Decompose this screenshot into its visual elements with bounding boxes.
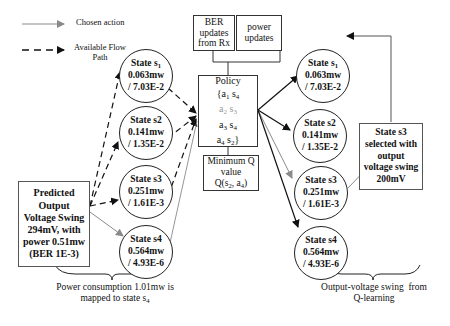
left-state-s4: State s4 0.564mw / 4.93E-6 xyxy=(119,225,173,279)
minq-line2: value xyxy=(221,167,242,178)
predicted-line6: (BER 1E-3) xyxy=(29,248,79,260)
state-power: 0.141mw xyxy=(128,127,164,139)
power-line1: power xyxy=(247,22,271,33)
minimum-q-box: Minimum Q value Q(s2, a4) xyxy=(203,155,259,191)
right-caption: Output-voltage swing from Q-learning xyxy=(318,282,430,304)
predicted-line1: Predicted xyxy=(34,187,75,199)
state-power: 0.063mw xyxy=(128,70,164,82)
predicted-output-box: Predicted Output Voltage Swing 294mV, wi… xyxy=(18,181,90,267)
predicted-line2: Output xyxy=(38,200,69,212)
policy-row-4: a4 s2} xyxy=(217,133,240,148)
selected-line5: 200mV xyxy=(376,174,405,186)
state-title: State s1 xyxy=(131,58,161,70)
state-ber: / 7.03E-2 xyxy=(305,82,341,94)
left-state-s3: State s3 0.251mw / 1.61E-3 xyxy=(119,165,173,219)
selected-line1: State s3 xyxy=(375,127,406,139)
predicted-line3: Voltage Swing xyxy=(24,212,84,224)
state-title: State s3 xyxy=(130,174,161,186)
state-power: 0.141mw xyxy=(302,130,338,142)
right-caption-line2: Q-learning xyxy=(318,293,430,304)
right-state-s1: State s1 0.063mw / 7.03E-2 xyxy=(296,49,350,103)
state-title: State s2 xyxy=(304,118,335,130)
state-title: State s3 xyxy=(305,175,336,187)
state-ber: / 4.93E-6 xyxy=(128,258,164,270)
right-state-s2: State s2 0.141mw / 1.35E-2 xyxy=(293,109,347,163)
policy-box: Policy {a1 s4 a2 s3 a3 s4 a4 s2} xyxy=(198,75,258,147)
policy-title: Policy xyxy=(215,74,241,87)
ber-line3: from Rx xyxy=(198,38,230,49)
policy-row-2: a2 s3 xyxy=(219,102,237,117)
selected-line2: selected with xyxy=(365,139,417,151)
state-ber: / 4.93E-6 xyxy=(303,259,339,271)
state-power: 0.564mw xyxy=(128,246,164,258)
left-caption-line2: mapped to state s4 xyxy=(42,293,188,305)
state-title: State s2 xyxy=(130,115,161,127)
right-state-s3: State s3 0.251mw / 1.61E-3 xyxy=(294,166,348,220)
policy-row-3: a3 s4 xyxy=(219,118,237,133)
selected-line4: voltage swing xyxy=(364,162,419,174)
state-power: 0.251mw xyxy=(128,186,164,198)
selected-state-box: State s3 selected with output voltage sw… xyxy=(359,123,423,190)
policy-row-1: {a1 s4 xyxy=(217,87,240,102)
predicted-line4: 294mV, with xyxy=(27,224,80,236)
state-ber: / 7.03E-2 xyxy=(128,82,164,94)
legend-available-flow-label: Available Flow Path xyxy=(74,43,126,63)
left-state-s1: State s1 0.063mw / 7.03E-2 xyxy=(119,49,173,103)
state-title: State s4 xyxy=(305,235,336,247)
right-state-s4: State s4 0.564mw / 4.93E-6 xyxy=(294,226,348,280)
state-ber: / 1.61E-3 xyxy=(303,199,339,211)
state-power: 0.564mw xyxy=(303,247,339,259)
right-caption-line1: Output-voltage swing from xyxy=(318,282,430,293)
left-caption-line1: Power consumption 1.01mw is xyxy=(42,282,188,293)
ber-line1: BER xyxy=(205,17,223,28)
ber-line2: updates xyxy=(199,28,228,39)
state-power: 0.063mw xyxy=(305,70,341,82)
state-ber: / 1.61E-3 xyxy=(128,198,164,210)
legend-available-flow-line2: Path xyxy=(74,53,126,63)
state-title: State s4 xyxy=(130,234,161,246)
state-ber: / 1.35E-2 xyxy=(128,139,164,151)
state-title: State s1 xyxy=(308,58,338,70)
predicted-line5: power 0.51mw xyxy=(23,236,85,248)
power-updates-box: power updates xyxy=(236,15,282,51)
minq-line3: Q(s2, a4) xyxy=(215,178,248,190)
selected-line3: output xyxy=(378,151,405,163)
power-line2: updates xyxy=(244,33,273,44)
left-state-s2: State s2 0.141mw / 1.35E-2 xyxy=(119,106,173,160)
state-ber: / 1.35E-2 xyxy=(302,142,338,154)
legend-chosen-action-label: Chosen action xyxy=(76,18,124,28)
ber-updates-box: BER updates from Rx xyxy=(193,15,235,51)
left-caption: Power consumption 1.01mw is mapped to st… xyxy=(42,282,188,305)
minq-line1: Minimum Q xyxy=(207,156,254,167)
state-power: 0.251mw xyxy=(303,187,339,199)
